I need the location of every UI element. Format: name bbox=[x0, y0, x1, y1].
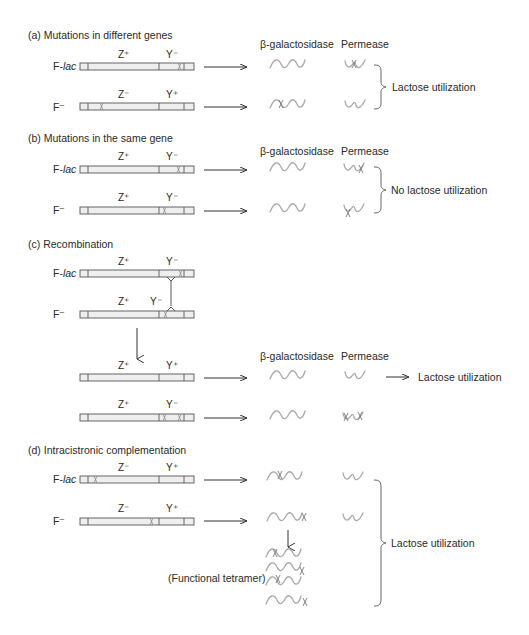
gene-label-z: Z⁻ bbox=[118, 503, 129, 514]
result-label: Lactose utilization bbox=[392, 81, 476, 93]
tetramer-subunit bbox=[266, 575, 301, 585]
tetramer-subunit bbox=[266, 563, 304, 575]
gene-label-y: Y⁻ bbox=[166, 399, 178, 410]
gene-label-y: Y⁺ bbox=[166, 503, 178, 514]
gene-label-z: Z⁺ bbox=[118, 151, 129, 162]
brace-icon bbox=[374, 65, 386, 109]
gene-bar bbox=[80, 207, 194, 214]
gene-bar bbox=[80, 103, 194, 110]
crossover-line bbox=[167, 277, 175, 311]
gene-bar bbox=[80, 166, 194, 173]
panel-a: (a) Mutations in different genes Z⁺ Y⁻ F… bbox=[28, 29, 476, 113]
header-permease-b: Permease bbox=[341, 145, 389, 157]
panel-b: (b) Mutations in the same gene Z⁺ Y⁻ F-l… bbox=[28, 132, 487, 217]
gene-label-z: Z⁺ bbox=[118, 49, 129, 60]
strain-label-f-minus: F⁻ bbox=[53, 101, 65, 113]
gene-bar bbox=[80, 63, 194, 70]
header-permease: Permease bbox=[341, 38, 389, 50]
gene-label-z: Z⁺ bbox=[118, 256, 129, 267]
strain-label-f-minus: F⁻ bbox=[53, 204, 65, 216]
tetramer-label: (Functional tetramer) bbox=[168, 572, 265, 584]
gene-bar bbox=[80, 414, 194, 421]
gene-label-y: Y⁻ bbox=[166, 192, 178, 203]
strain-label-f-lac: F-lac bbox=[53, 473, 77, 485]
panel-title-c: (c) Recombination bbox=[28, 238, 113, 250]
gene-label-z: Z⁺ bbox=[118, 360, 129, 371]
gene-bar bbox=[80, 518, 194, 525]
gene-label-y: Y⁻ bbox=[166, 256, 178, 267]
gene-label-y: Y⁻ bbox=[166, 49, 178, 60]
gene-label-z: Z⁺ bbox=[118, 399, 129, 410]
panel-c: (c) Recombination Z⁺ Y⁻ F-lac Z⁺ Y⁻ F⁻ Z… bbox=[28, 238, 502, 421]
gene-label-z: Z⁻ bbox=[118, 89, 129, 100]
brace-icon bbox=[374, 480, 386, 606]
result-label: No lactose utilization bbox=[391, 184, 487, 196]
header-beta-galactosidase-b: β-galactosidase bbox=[260, 145, 334, 157]
gene-label-y: Y⁻ bbox=[166, 151, 178, 162]
tetramer-subunit bbox=[266, 596, 307, 606]
result-label: Lactose utilization bbox=[418, 371, 502, 383]
strain-label-f-lac: F-lac bbox=[53, 267, 77, 279]
strain-label-f-lac: F-lac bbox=[53, 60, 77, 72]
panel-title-b: (b) Mutations in the same gene bbox=[28, 132, 173, 144]
panel-title-a: (a) Mutations in different genes bbox=[28, 29, 173, 41]
result-label: Lactose utilization bbox=[391, 537, 475, 549]
gene-label-y: Y⁻ bbox=[150, 296, 162, 307]
brace-icon bbox=[374, 167, 386, 213]
gene-bar bbox=[80, 311, 194, 318]
tetramer-subunit bbox=[266, 549, 301, 557]
gene-label-y: Y⁺ bbox=[166, 89, 178, 100]
gene-label-z: Z⁻ bbox=[118, 462, 129, 473]
strain-label-f-minus: F⁻ bbox=[53, 308, 65, 320]
panel-d: (d) Intracistronic complementation Z⁻ Y⁺… bbox=[28, 444, 475, 606]
strain-label-f-minus: F⁻ bbox=[53, 515, 65, 527]
panel-title-d: (d) Intracistronic complementation bbox=[28, 444, 186, 456]
header-permease-c: Permease bbox=[341, 350, 389, 362]
lac-complementation-diagram: β-galactosidase Permease β-galactosidase… bbox=[0, 0, 529, 635]
header-beta-galactosidase-c: β-galactosidase bbox=[260, 350, 334, 362]
gene-bar bbox=[80, 476, 194, 483]
gene-bar bbox=[80, 270, 194, 277]
gene-label-z: Z⁺ bbox=[118, 192, 129, 203]
gene-label-z: Z⁺ bbox=[118, 296, 129, 307]
header-beta-galactosidase: β-galactosidase bbox=[260, 38, 334, 50]
gene-label-y: Y⁺ bbox=[166, 462, 178, 473]
strain-label-f-lac: F-lac bbox=[53, 163, 77, 175]
gene-bar bbox=[80, 374, 194, 381]
gene-label-y: Y⁺ bbox=[166, 360, 178, 371]
